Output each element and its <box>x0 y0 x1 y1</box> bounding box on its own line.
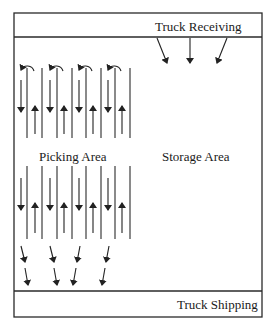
shipping-arrow-icon <box>106 246 109 262</box>
shipping-arrows <box>21 246 109 285</box>
aisle-loop-arrows <box>21 66 121 71</box>
receiving-arrows <box>157 38 227 63</box>
picking-area-label: Picking Area <box>39 150 107 163</box>
shipping-arrow-icon <box>102 268 105 285</box>
shipping-arrow-icon <box>77 246 80 262</box>
truck-receiving-label: Truck Receiving <box>155 20 242 33</box>
receiving-arrow-icon <box>217 38 227 63</box>
shipping-arrow-icon <box>21 246 25 262</box>
receiving-arrow-icon <box>157 38 167 63</box>
truck-shipping-label: Truck Shipping <box>177 298 258 311</box>
shipping-arrow-icon <box>73 268 76 285</box>
shipping-arrow-icon <box>50 246 54 262</box>
shipping-arrow-icon <box>54 268 57 285</box>
storage-area-label: Storage Area <box>162 150 230 163</box>
shipping-arrow-icon <box>25 268 28 285</box>
warehouse-outline <box>14 13 262 317</box>
